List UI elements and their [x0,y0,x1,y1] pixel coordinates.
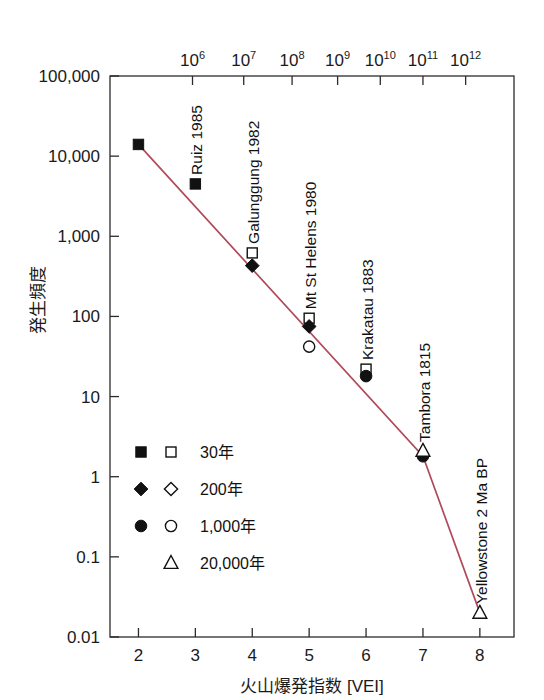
legend-marker-filled-diamond [134,482,148,496]
chart-container: 100,00010,0001,0001001010.10.01 2345678 … [0,0,544,700]
legend-marker-open-circle [165,520,176,531]
y-axis-title: 発生頻度 [29,266,48,334]
annotation-label: Mt St Helens 1980 [302,181,319,309]
annotation-label: Tambora 1815 [416,343,433,442]
top-tick-label: 1012 [450,49,481,70]
legend-label: 20,000年 [200,555,265,572]
legend-label: 30年 [200,444,234,461]
top-tick-label: 109 [325,49,350,70]
top-tick-label: 108 [280,49,305,70]
y-tick-label: 100 [72,307,100,326]
legend-marker-filled-circle [135,520,147,532]
legend-label: 1,000年 [200,518,256,535]
plot-border [110,76,514,637]
y-tick-label: 0.01 [67,628,100,647]
legend-label: 200年 [200,481,243,498]
top-axis-ticks [193,76,466,85]
marker-filled-square [190,179,200,189]
x-tick-label: 7 [418,646,427,665]
top-tick-label: 106 [180,49,205,70]
x-tick-label: 8 [475,646,484,665]
legend-marker-open-square [166,447,176,457]
x-tick-label: 2 [134,646,143,665]
x-tick-label: 6 [361,646,370,665]
y-tick-label: 10 [81,388,100,407]
top-axis-tick-labels: 106107108109101010111012 [180,49,481,70]
annotation-label: Galunggung 1982 [245,121,262,244]
marker-filled-diamond [245,259,259,273]
x-axis-tick-labels: 2345678 [134,646,485,665]
x-axis-title: 火山爆発指数 [VEI] [240,677,384,696]
y-axis-tick-labels: 100,00010,0001,0001001010.10.01 [39,67,100,647]
annotation-label: Krakatau 1883 [359,259,376,360]
y-tick-label: 0.1 [76,548,100,567]
plot-frame [110,76,514,637]
marker-open-square [247,248,257,258]
legend-marker-open-diamond [164,482,177,495]
y-axis-ticks [110,76,119,637]
y-tick-label: 1 [91,468,100,487]
top-tick-label: 1011 [408,49,438,70]
annotation-label: Ruiz 1985 [188,105,205,175]
x-tick-label: 3 [191,646,200,665]
annotation-label: Yellowstone 2 Ma BP [473,458,490,604]
marker-open-circle [304,341,315,352]
y-tick-label: 100,000 [39,67,100,86]
marker-open-triangle [473,605,487,618]
legend-marker-open-triangle [164,556,178,569]
marker-filled-circle [360,370,372,382]
top-tick-label: 107 [231,49,256,70]
x-axis-ticks [138,628,479,637]
top-tick-label: 1010 [365,49,396,70]
marker-filled-square [133,139,143,149]
y-tick-label: 1,000 [57,227,100,246]
x-tick-label: 4 [248,646,257,665]
volcano-frequency-vei-chart: 100,00010,0001,0001001010.10.01 2345678 … [0,0,544,700]
chart-legend: 30年200年1,000年20,000年 [134,444,265,572]
x-tick-label: 5 [304,646,313,665]
y-tick-label: 10,000 [48,147,100,166]
legend-marker-filled-square [136,447,146,457]
